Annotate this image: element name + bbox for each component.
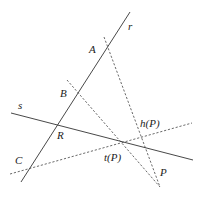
geometry-diagram: r s A B R C t(P) h(P) P [0,0,205,199]
label-s: s [18,99,22,111]
label-R: R [56,129,64,141]
dashed-line-through-B [67,80,160,187]
label-B: B [60,87,67,99]
label-C: C [15,154,23,166]
label-A: A [88,43,96,55]
dashed-line-through-A [104,37,160,187]
label-P: P [159,166,167,178]
label-tP: t(P) [104,151,121,164]
label-hP: h(P) [140,117,160,130]
label-r: r [128,20,133,32]
